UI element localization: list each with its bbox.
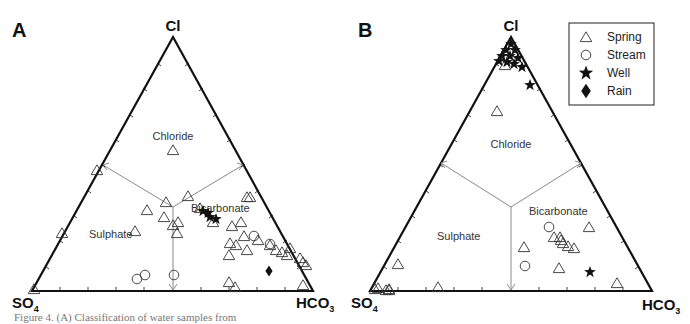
circle-marker-icon xyxy=(544,222,554,232)
triangle-marker-icon xyxy=(611,278,623,288)
circle-marker-icon xyxy=(169,270,179,280)
panel-b-vertex-so4: SO4 xyxy=(351,294,378,314)
panel-b-region-bicarbonate: Bicarbonate xyxy=(529,205,588,217)
circle-marker-icon xyxy=(140,270,150,280)
legend: Spring Stream Well Rain xyxy=(569,23,654,105)
panel-b: B Cl SO4 HCO3 xyxy=(351,17,680,316)
triangle-marker-icon xyxy=(241,245,253,255)
triangle-marker-icon xyxy=(518,242,530,252)
triangle-marker-icon xyxy=(141,205,153,215)
panel-a-vertex-hco3: HCO3 xyxy=(296,294,334,314)
triangle-marker-icon xyxy=(252,235,264,245)
diamond-marker-icon xyxy=(265,266,272,277)
star-marker-icon xyxy=(584,266,596,277)
panel-a-region-chloride: Chloride xyxy=(153,130,194,142)
panel-b-region-dividers xyxy=(441,161,581,290)
triangle-marker-icon xyxy=(238,231,250,241)
panel-b-region-chloride: Chloride xyxy=(491,138,532,150)
triangle-marker-icon xyxy=(491,106,503,116)
ternary-figure: A Cl SO4 HCO3 xyxy=(0,0,690,324)
legend-rain: Rain xyxy=(607,84,632,98)
figure-caption: Figure 4. (A) Classification of water sa… xyxy=(14,311,236,324)
legend-well: Well xyxy=(607,66,630,80)
panel-a-vertex-cl: Cl xyxy=(166,17,181,34)
panel-a-region-sulphate: Sulphate xyxy=(89,228,132,240)
panel-b-letter: B xyxy=(358,19,372,41)
panel-a-letter: A xyxy=(12,19,26,41)
triangle-marker-icon xyxy=(392,259,404,269)
triangle-marker-icon xyxy=(553,263,565,273)
circle-marker-icon xyxy=(520,261,530,271)
panel-b-vertex-hco3: HCO3 xyxy=(642,296,680,316)
triangle-marker-icon xyxy=(167,145,179,155)
legend-spring: Spring xyxy=(607,30,642,44)
triangle-marker-icon xyxy=(583,222,595,232)
legend-stream: Stream xyxy=(607,48,646,62)
triangle-marker-icon xyxy=(158,212,170,222)
panel-b-region-sulphate: Sulphate xyxy=(437,230,480,242)
triangle-marker-icon xyxy=(235,217,247,227)
panel-a: A Cl SO4 HCO3 xyxy=(12,17,334,314)
panel-b-vertex-cl: Cl xyxy=(504,17,519,34)
triangle-marker-icon xyxy=(223,250,235,260)
